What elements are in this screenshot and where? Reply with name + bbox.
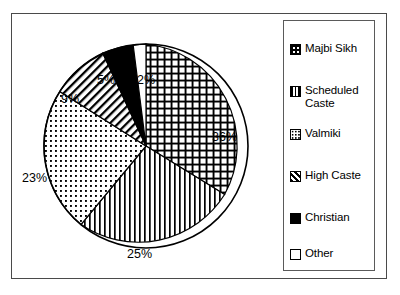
legend-swatch-empty-icon bbox=[290, 249, 301, 260]
legend-list: Majbi Sikh Scheduled Caste Valmiki High … bbox=[284, 21, 374, 270]
legend-item-scheduled-caste[interactable]: Scheduled Caste bbox=[290, 84, 374, 110]
legend-item-christian[interactable]: Christian bbox=[290, 211, 374, 224]
data-label-valmiki: 23% bbox=[22, 171, 47, 185]
legend-item-other[interactable]: Other bbox=[290, 247, 374, 260]
legend: Majbi Sikh Scheduled Caste Valmiki High … bbox=[283, 20, 375, 271]
data-label-majbi-sikh: 36% bbox=[212, 130, 237, 144]
legend-item-high-caste[interactable]: High Caste bbox=[290, 169, 374, 182]
data-label-high-caste: 9% bbox=[61, 92, 79, 106]
legend-label-other: Other bbox=[305, 247, 333, 260]
pie-svg bbox=[14, 14, 284, 278]
legend-label-high-caste: High Caste bbox=[305, 169, 361, 182]
legend-item-valmiki[interactable]: Valmiki bbox=[290, 127, 374, 140]
legend-swatch-diagonal-lines-icon bbox=[290, 171, 301, 182]
pie-chart-figure: 36% 25% 23% 9% 5% 2% Majbi Sikh Schedule… bbox=[0, 0, 400, 295]
data-label-christian: 5% bbox=[97, 73, 115, 87]
legend-label-scheduled-caste: Scheduled Caste bbox=[305, 84, 358, 110]
data-label-other: 2% bbox=[137, 73, 155, 87]
legend-item-majbi-sikh[interactable]: Majbi Sikh bbox=[290, 42, 374, 55]
pie-area: 36% 25% 23% 9% 5% 2% bbox=[14, 14, 284, 278]
legend-label-valmiki: Valmiki bbox=[305, 127, 341, 140]
legend-label-christian: Christian bbox=[305, 211, 349, 224]
legend-label-majbi-sikh: Majbi Sikh bbox=[305, 42, 357, 55]
legend-swatch-vertical-lines-icon bbox=[290, 86, 301, 97]
legend-swatch-dots-icon bbox=[290, 129, 301, 140]
data-label-scheduled-caste: 25% bbox=[127, 247, 152, 261]
legend-swatch-crosshatch-icon bbox=[290, 44, 301, 55]
legend-swatch-solid-icon bbox=[290, 213, 301, 224]
